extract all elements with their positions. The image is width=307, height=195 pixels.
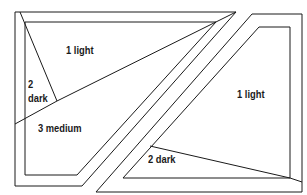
left-piece-inner-outline xyxy=(25,22,216,175)
right-corner-line xyxy=(290,178,302,182)
label-left-light: 1 light xyxy=(66,44,94,57)
label-right-dark: 2 dark xyxy=(148,153,176,166)
label-left-medium: 3 medium xyxy=(38,122,82,135)
label-left-dark-number: 2 xyxy=(28,78,33,91)
left-dark-divider xyxy=(20,12,57,101)
label-left-dark-word: dark xyxy=(28,92,48,105)
left-piece-outer-outline xyxy=(15,12,236,186)
label-right-light: 1 light xyxy=(237,88,265,101)
